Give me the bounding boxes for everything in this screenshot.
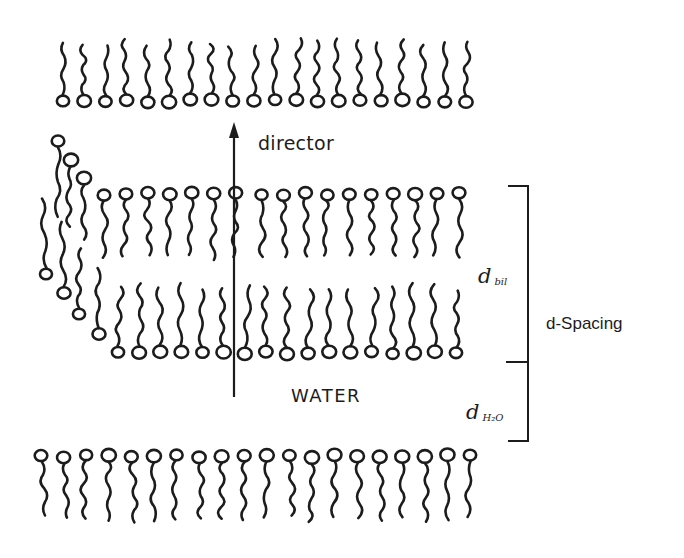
d-water-symbol: d [466,400,479,424]
lipid-molecule [375,43,388,107]
lipid-molecule [153,288,167,358]
lipid-molecule [141,46,154,108]
lipid-molecule [299,187,312,256]
lipid-molecule [290,38,304,105]
lipid-molecule [343,189,356,255]
lipid-molecule [52,136,65,217]
lipid-molecule [311,41,324,107]
lipid-molecule [196,290,208,358]
lipid-molecule [80,450,92,519]
lipid-molecule [418,450,432,522]
lipid-molecule [64,154,78,227]
lipid-molecule [98,190,111,258]
lipid-molecule [77,45,91,107]
lipid-molecule [132,283,146,358]
d-bilayer-label: dbil [478,264,507,288]
d-spacing-label: d-Spacing [546,314,623,334]
lipid-molecule [215,450,229,518]
lipid-molecule [147,450,161,521]
lipid-molecule [256,189,268,256]
water-label: WATER [291,385,361,406]
lipid-molecule [322,289,336,358]
lipid-molecule [185,187,198,255]
lipid-molecule [459,42,472,108]
lipid-molecule [305,451,319,522]
lipid-molecule [40,199,52,280]
lipid-molecule [428,284,442,358]
director-label: director [258,132,334,154]
d-water-subscript: H₂O [482,412,503,423]
lipid-molecule [120,39,133,106]
lipid-molecule [260,449,274,517]
lipid-molecule [354,40,367,105]
lipid-molecule [163,188,177,255]
lipid-molecule [57,43,69,107]
lipid-molecule [283,450,295,516]
lipid-molecule [92,268,105,340]
lipid-molecule [280,288,294,361]
lipid-molecule [226,47,239,107]
lipid-molecule [120,188,133,256]
lipid-molecule [321,190,333,256]
lipid-molecule [332,39,346,107]
lipid-molecule [407,283,421,359]
lipid-molecule [238,450,251,520]
lipid-molecule [35,450,48,515]
lipid-molecule [73,248,85,319]
lipid-molecule [453,187,466,257]
lipid-molecule [328,449,342,517]
lipid-molecule [395,450,409,517]
lipid-molecule [205,44,219,106]
lipid-molecule [77,172,91,240]
lipid-molecule [162,40,176,109]
lipid-molecule [229,187,242,257]
lipid-molecule [175,283,189,358]
lipid-molecule [395,40,409,107]
lipid-molecule [238,285,252,360]
lipid-molecule [431,188,444,255]
lipid-molecule [350,450,364,518]
lipid-molecule [99,46,111,107]
lipid-molecule [57,452,70,518]
lipid-molecule [438,42,451,107]
lipid-molecule [259,287,272,358]
lipid-molecule [387,188,400,255]
lipid-molecule [440,448,454,520]
lipid-molecule [207,188,220,260]
lipid-molecules [35,38,476,522]
lipid-molecule [277,190,290,257]
lipid-molecule [365,189,377,254]
d-spacing-bracket [506,186,528,441]
lipid-molecule [302,289,315,359]
lipid-molecule [57,222,70,299]
lipid-molecule [192,452,205,519]
lipid-molecule [408,188,422,257]
lipid-molecule [373,451,387,521]
lipid-molecule [184,42,197,105]
lipid-molecule [365,288,378,357]
lipid-molecule [343,290,357,359]
lipid-molecule [417,45,429,107]
lipid-molecule [216,288,230,358]
lipid-molecule [125,451,138,522]
lipid-molecule [450,291,462,359]
lipid-molecule [141,187,154,255]
d-bilayer-symbol: d [478,264,491,288]
lipid-molecule [247,46,260,107]
lipid-molecule [102,449,116,521]
lipid-molecule [269,39,281,105]
lamellar-diagram [0,0,684,558]
lipid-molecule [464,450,476,517]
d-water-label: dH₂O [466,400,503,424]
lipid-molecule [387,287,399,359]
lipid-molecule [112,287,124,358]
lipid-molecule [170,450,182,520]
d-bilayer-subscript: bil [494,276,507,287]
